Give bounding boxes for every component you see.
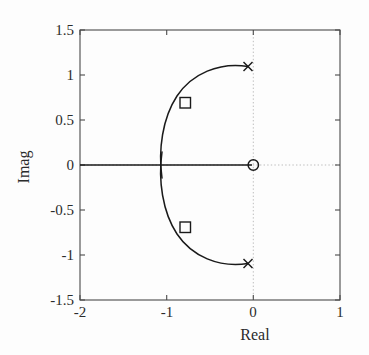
ytick-label--1.5: -1.5 <box>30 293 74 308</box>
closed-loop-root-lower-square-marker <box>180 222 191 233</box>
locus-branch-upper <box>161 66 248 178</box>
xtick-label--2: -2 <box>74 305 87 320</box>
xtick-label-1: 1 <box>336 305 344 320</box>
axis-label-real: Real <box>180 326 330 344</box>
closed-loop-root-upper-square-marker <box>180 98 191 109</box>
axis-label-imag: Imag <box>15 137 33 197</box>
locus-branch-lower <box>161 152 248 264</box>
ytick-label-0: 0 <box>30 158 74 173</box>
ytick-label-1.5: 1.5 <box>30 23 74 38</box>
ytick-label-0.5: 0.5 <box>30 113 74 128</box>
root-locus-figure: 1.5 1 0.5 0 -0.5 -1 -1.5 -2 -1 0 1 Imag … <box>0 0 369 355</box>
ytick-label--1: -1 <box>30 248 74 263</box>
ytick-label-1: 1 <box>30 68 74 83</box>
xtick-label-0: 0 <box>249 305 257 320</box>
ytick-label--0.5: -0.5 <box>30 203 74 218</box>
xtick-label--1: -1 <box>161 305 174 320</box>
